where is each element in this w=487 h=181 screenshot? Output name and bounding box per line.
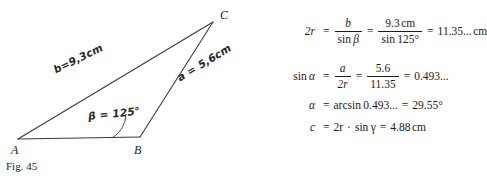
eq1-frac2-den-fn: sin: [381, 33, 394, 45]
vertex-label-c: C: [220, 8, 228, 23]
eq1-equals-1: =: [319, 25, 334, 37]
eq1-frac2-num-value: 9.3: [385, 17, 399, 29]
vertex-label-a: A: [11, 143, 18, 158]
eq4-multiplication-dot: ·: [343, 121, 355, 133]
eq1-result: 11.35...: [438, 25, 472, 37]
eq2-equals-2: =: [352, 70, 367, 82]
eq1-frac2-denominator: sin 125°: [378, 31, 422, 46]
eq2-fraction-1: a 2r: [335, 62, 351, 91]
eq2-equals-1: =: [319, 70, 334, 82]
eq1-equals-3: =: [423, 25, 438, 37]
vertex-label-b: B: [134, 143, 141, 158]
equations-panel: 2r = b sin β = 9.3cm sin 125° = 11.35...…: [268, 0, 487, 181]
figure-caption: Fig. 45: [6, 160, 37, 172]
eq1-frac2-numerator: 9.3cm: [382, 17, 418, 31]
eq4-term-1: 2r: [334, 121, 344, 133]
eq2-lhs-var: α: [309, 70, 315, 82]
eq2-frac2-denominator: 11.35: [367, 76, 398, 91]
equation-line-1: 2r = b sin β = 9.3cm sin 125° = 11.35...…: [268, 17, 487, 46]
eq1-frac1-denominator: sin β: [335, 31, 362, 46]
eq2-frac1-numerator: a: [337, 62, 349, 76]
eq1-frac2-num-unit: cm: [400, 17, 416, 29]
eq1-frac1-numerator: b: [342, 17, 354, 31]
eq2-frac1-denominator: 2r: [335, 76, 351, 91]
eq3-equals-2: =: [398, 99, 413, 111]
eq3-function: arcsin: [334, 99, 361, 111]
equation-line-4: c = 2r · sin γ = 4.88cm: [268, 121, 426, 133]
equation-line-3: α = arcsin 0.493... = 29.55°: [268, 99, 443, 111]
eq4-result: 4.88: [390, 121, 410, 133]
eq2-frac2-numerator: 5.6: [373, 62, 393, 76]
eq2-lhs-fn: sin: [293, 70, 306, 82]
eq1-equals-2: =: [363, 25, 378, 37]
eq1-result-unit: cm: [472, 25, 487, 37]
eq4-equals-1: =: [319, 121, 334, 133]
figure-page: A B C b=9,3cm a = 5,6cm β = 125° Fig. 45…: [0, 0, 487, 181]
eq1-frac1-den-var: β: [353, 33, 359, 45]
eq1-frac1-den-fn: sin: [338, 33, 351, 45]
eq3-argument: 0.493...: [363, 99, 398, 111]
eq4-result-unit: cm: [410, 121, 426, 133]
eq1-fraction-1: b sin β: [335, 17, 362, 46]
eq1-lhs: 2r: [268, 25, 319, 37]
eq3-result: 29.55°: [412, 99, 442, 111]
triangle-side-a: [140, 22, 213, 137]
eq1-fraction-2: 9.3cm sin 125°: [378, 17, 422, 46]
eq2-lhs: sin α: [268, 70, 319, 82]
eq2-fraction-2: 5.6 11.35: [367, 62, 398, 91]
eq2-equals-3: =: [400, 70, 415, 82]
eq3-equals-1: =: [319, 99, 334, 111]
triangle-figure-panel: A B C b=9,3cm a = 5,6cm β = 125° Fig. 45: [0, 0, 268, 181]
eq4-lhs: c: [268, 121, 319, 133]
triangle-side-c: [18, 137, 140, 139]
eq1-frac2-den-value: 125°: [397, 33, 419, 45]
eq4-equals-2: =: [376, 121, 391, 133]
eq2-result: 0.493...: [414, 70, 449, 82]
eq3-lhs: α: [268, 99, 319, 111]
eq4-function: sin: [355, 121, 368, 133]
equation-line-2: sin α = a 2r = 5.6 11.35 = 0.493...: [268, 62, 449, 91]
